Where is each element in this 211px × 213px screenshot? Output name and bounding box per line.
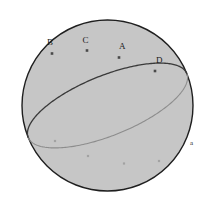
sphere-diagram-container: BCAD a [0,0,211,213]
back-point-marker-b1 [54,140,56,142]
point-label-A: A [119,42,126,51]
back-point-marker-b3 [123,162,125,164]
point-marker-B [51,52,54,55]
axis-label-a: a [190,140,193,147]
point-label-C: C [83,36,89,45]
back-point-marker-b2 [87,155,89,157]
point-marker-C [86,49,89,52]
point-label-B: B [47,38,53,47]
sphere-diagram-svg [0,0,211,213]
back-point-marker-b4 [158,160,160,162]
point-label-D: D [156,56,163,65]
point-marker-D [154,70,157,73]
point-marker-A [118,56,121,59]
